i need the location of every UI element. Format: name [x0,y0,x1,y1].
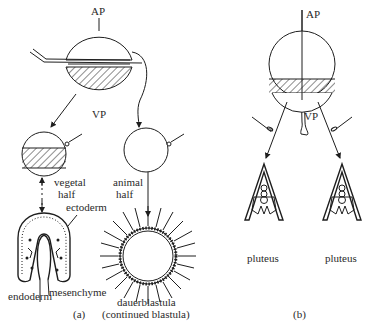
panel-b: AP VP pluteus [245,8,361,321]
needle-left-b [252,117,271,131]
pluteus-label-left: pluteus [247,252,279,264]
gastrula-drawing [18,213,70,282]
endoderm-label: endoderm [8,290,52,302]
needle-right-b [336,117,352,129]
vegetal-pole-label-a: VP [92,108,106,120]
pluteus-right [323,164,361,220]
animal-half-label-1: animal [113,176,143,188]
glass-needle-a [30,52,142,63]
animal-pole-label-b: AP [306,8,320,20]
mesenchyme-label: mesenchyme [49,286,107,298]
panel-a-caption: (a) [73,308,86,321]
pluteus-label-right: pluteus [325,252,357,264]
continued-blastula-label: (continued blastula) [102,308,190,321]
panel-b-caption: (b) [293,308,306,321]
panel-a: AP VP vegetal half [8,5,196,321]
vegetal-half-label-2: half [58,188,75,200]
embryo-separation-diagram: AP VP vegetal half [0,0,377,326]
dauerblastula-drawing [100,206,196,304]
ectoderm-label: ectoderm [66,201,107,213]
pluteus-left [245,164,283,220]
animal-half-circle [124,128,168,172]
vegetal-half-label-1: vegetal [54,176,86,188]
needle-vegetal [69,134,82,142]
egg-vegetal-half-a [66,67,132,90]
animal-pole-label-a: AP [91,5,105,17]
arrow-right-b [318,102,340,158]
egg-animal-half-a [66,37,132,60]
arrow-to-vegetal-half [51,94,76,127]
vegetal-pole-label-b: VP [304,110,318,122]
animal-half-label-2: half [116,188,133,200]
needle-animal [171,134,184,142]
dauerblastula-label: dauerblastula [117,296,176,308]
